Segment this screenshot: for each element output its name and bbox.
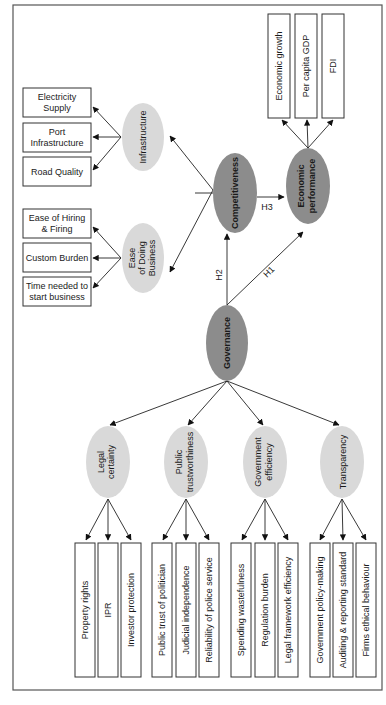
indicator-label: Auditing & reporting standard bbox=[338, 552, 348, 669]
competitiveness-indicator-boxes: Electricity Supply Port Infrastructure R… bbox=[23, 88, 91, 306]
path-label-h1: H1 bbox=[261, 264, 276, 279]
indicator-label: Electricity bbox=[38, 92, 77, 102]
svg-text:Ease: Ease bbox=[127, 248, 137, 269]
svg-text:trustworthiness: trustworthiness bbox=[185, 431, 195, 492]
indicator-label: Custom Burden bbox=[26, 253, 89, 263]
indicator-label: Road Quality bbox=[31, 167, 84, 177]
indicator-label: Regulation burden bbox=[260, 573, 270, 647]
research-model-diagram: H2 H1 H3 Economic growth Per capita GDP … bbox=[0, 0, 386, 705]
indicator-label: & Firing bbox=[41, 224, 72, 234]
indicator-label: Infrastructure bbox=[30, 138, 83, 148]
node-infrastructure: Infrastructure bbox=[122, 103, 164, 171]
indicator-label: Investor protection bbox=[126, 573, 136, 647]
node-legal-certainty: Legal certainty bbox=[86, 426, 130, 498]
indicator-label: Firms ethical behaviour bbox=[361, 563, 371, 656]
svg-text:Economic: Economic bbox=[296, 164, 306, 207]
svg-text:Transparency: Transparency bbox=[338, 434, 348, 489]
indicator-label: Ease of Hiring bbox=[29, 213, 86, 223]
indicator-label: Per capita GDP bbox=[301, 35, 311, 98]
path-label-h2: H2 bbox=[214, 269, 224, 281]
svg-text:Governance: Governance bbox=[222, 317, 232, 369]
svg-text:certainty: certainty bbox=[106, 444, 116, 479]
indicator-label: Reliability of police service bbox=[204, 557, 214, 663]
node-public-trustworthiness: Public trustworthiness bbox=[164, 426, 208, 498]
indicator-label: Government policy-making bbox=[315, 556, 325, 663]
node-ease-of-doing-business: Ease of Doing Business bbox=[122, 223, 164, 293]
svg-text:Business: Business bbox=[147, 239, 157, 276]
indicator-label: Time needed to bbox=[26, 281, 88, 291]
node-economic-performance: Economic performance bbox=[286, 148, 330, 224]
svg-text:Infrastructure: Infrastructure bbox=[138, 110, 148, 163]
node-transparency: Transparency bbox=[320, 426, 364, 498]
svg-text:performance: performance bbox=[307, 159, 317, 214]
svg-text:Public: Public bbox=[174, 449, 184, 474]
indicator-label: Port bbox=[49, 127, 66, 137]
indicator-label: Property rights bbox=[80, 580, 90, 639]
indicator-label: Economic growth bbox=[274, 31, 284, 100]
governance-indicator-boxes: Property rights IPR Investor protection … bbox=[75, 543, 376, 677]
indicator-label: Supply bbox=[43, 103, 71, 113]
indicator-label: start business bbox=[29, 292, 85, 302]
node-government-efficiency: Government efficiency bbox=[243, 426, 287, 498]
node-governance: Governance bbox=[206, 305, 248, 381]
path-label-h3: H3 bbox=[261, 202, 273, 212]
node-competitiveness: Competitiveness bbox=[213, 153, 257, 233]
indicator-label: FDI bbox=[328, 59, 338, 74]
indicator-label: Spending wastefulness bbox=[236, 563, 246, 656]
econ-indicator-boxes: Economic growth Per capita GDP FDI bbox=[268, 14, 344, 118]
indicator-label: Legal framework efficiency bbox=[283, 556, 293, 663]
svg-text:Government: Government bbox=[253, 437, 263, 487]
svg-text:Legal: Legal bbox=[96, 451, 106, 473]
svg-text:efficiency: efficiency bbox=[264, 443, 274, 481]
indicator-label: IPR bbox=[103, 602, 113, 618]
svg-text:of Doing: of Doing bbox=[137, 241, 147, 275]
indicator-label: Judicial independence bbox=[181, 565, 191, 654]
svg-text:Competitiveness: Competitiveness bbox=[230, 157, 240, 229]
indicator-label: Public trust of politician bbox=[157, 564, 167, 656]
